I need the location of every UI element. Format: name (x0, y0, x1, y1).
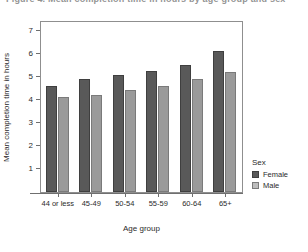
y-tick-label: 1 (29, 164, 36, 173)
x-tick-mark (125, 193, 126, 197)
bar-female-55-59 (146, 71, 157, 192)
legend-item-female[interactable]: Female (252, 170, 306, 179)
legend: Sex FemaleMale (252, 158, 306, 192)
y-tick-label: 4 (29, 95, 36, 104)
y-tick: 7 (29, 25, 40, 35)
x-axis-labels: 44 or less45-4950-5455-5960-6465+ (41, 199, 242, 221)
bar-male-45-49 (91, 95, 102, 192)
legend-items: FemaleMale (252, 170, 306, 190)
bar-group (146, 22, 170, 192)
legend-item-male[interactable]: Male (252, 181, 306, 190)
y-tick-label: 6 (29, 49, 36, 58)
y-tick: 2 (29, 141, 40, 151)
x-tick-mark (192, 193, 193, 197)
y-axis-title: Mean completion time in hours (0, 21, 13, 193)
x-tick-label: 65+ (203, 199, 247, 208)
y-tick: 4 (29, 94, 40, 104)
y-tick: 1 (29, 164, 40, 174)
bar-group (46, 22, 70, 192)
y-axis-ticks: 1234567 (14, 21, 40, 193)
bar-female-50-54 (113, 75, 124, 192)
y-tick: 3 (29, 118, 40, 128)
bar-male-50-54 (125, 90, 136, 192)
x-axis-title: Age group (41, 224, 242, 233)
x-tick-mark (158, 193, 159, 197)
bar-male-44-or-less (58, 97, 69, 192)
y-tick-label: 7 (29, 26, 36, 35)
bar-group (180, 22, 204, 192)
bar-group (213, 22, 237, 192)
y-tick-label: 2 (29, 141, 36, 150)
bar-female-45-49 (79, 79, 90, 192)
x-tick-mark (91, 193, 92, 197)
x-tick-mark (58, 193, 59, 197)
legend-item-label: Female (263, 170, 288, 179)
bar-male-55-59 (158, 86, 169, 192)
x-tick-mark (225, 193, 226, 197)
chart-figure: Figure 4. Mean completion time in hours … (0, 0, 308, 252)
y-tick-label: 3 (29, 118, 36, 127)
y-tick-label: 5 (29, 72, 36, 81)
bars-layer (41, 22, 242, 192)
bar-female-65- (213, 51, 224, 192)
legend-item-label: Male (263, 181, 279, 190)
bar-male-65- (225, 72, 236, 192)
bar-female-44-or-less (46, 86, 57, 192)
bar-male-60-64 (192, 79, 203, 192)
legend-title: Sex (252, 158, 306, 167)
y-tick: 6 (29, 48, 40, 58)
female-swatch (252, 171, 259, 178)
bar-group (79, 22, 103, 192)
male-swatch (252, 182, 259, 189)
figure-title: Figure 4. Mean completion time in hours … (6, 0, 302, 4)
bar-group (113, 22, 137, 192)
y-tick: 5 (29, 71, 40, 81)
bar-female-60-64 (180, 65, 191, 192)
y-axis-title-text: Mean completion time in hours (2, 53, 11, 162)
